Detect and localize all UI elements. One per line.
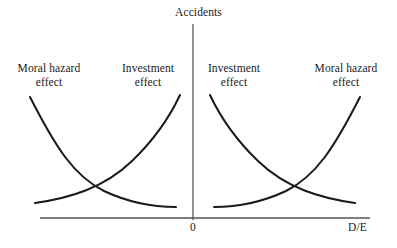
chart-title: Accidents: [0, 6, 397, 20]
annotation-line-1: Investment: [208, 62, 260, 74]
x-axis-label: D/E: [348, 221, 392, 235]
annotation-line-2: effect: [198, 76, 270, 90]
annotation-line-1: Moral hazard: [315, 62, 378, 74]
annotation-moral-hazard-left: Moral hazard effect: [10, 62, 88, 89]
chart-title-text: Accidents: [175, 6, 222, 18]
annotation-line-2: effect: [10, 76, 88, 90]
curve-investment-left: [35, 95, 180, 203]
annotation-moral-hazard-right: Moral hazard effect: [306, 62, 386, 89]
curve-moral-hazard-left: [30, 97, 176, 207]
annotation-line-1: Moral hazard: [18, 62, 81, 74]
accidents-de-figure: Accidents Moral hazard effect Investment…: [0, 0, 397, 248]
curve-moral-hazard-right: [214, 97, 360, 207]
annotation-line-2: effect: [306, 76, 386, 90]
curve-investment-right: [210, 95, 355, 203]
figure-canvas: [0, 0, 397, 248]
annotation-investment-right: Investment effect: [198, 62, 270, 89]
annotation-investment-left: Investment effect: [112, 62, 184, 89]
annotation-line-2: effect: [112, 76, 184, 90]
annotation-line-1: Investment: [122, 62, 174, 74]
origin-tick-label: 0: [178, 221, 208, 235]
